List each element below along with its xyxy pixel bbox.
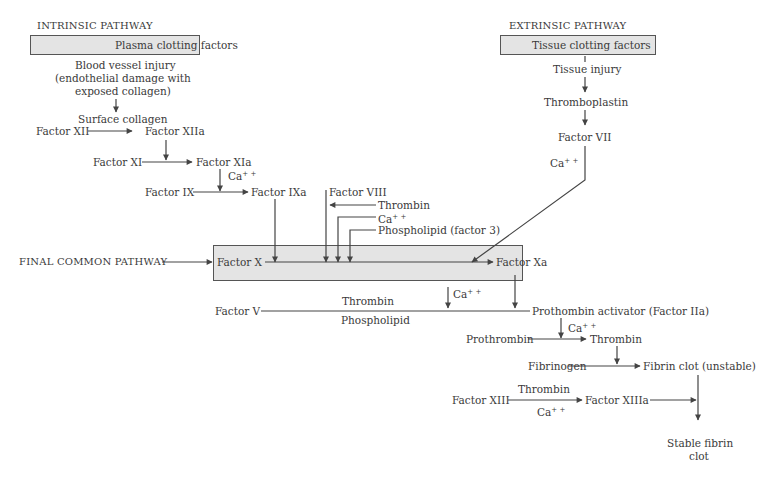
factor-xiia-label: Factor XIIa <box>145 125 205 137</box>
clot-label: clot <box>689 450 709 462</box>
factor-v-label: Factor V <box>215 305 260 317</box>
thrombin-label: Thrombin <box>518 383 570 395</box>
prothrombin-activator-label: Prothombin activator (Factor IIa) <box>532 305 709 317</box>
intrinsic-pathway-title: INTRINSIC PATHWAY <box>37 20 153 32</box>
calcium-label: Ca+ + <box>537 404 565 418</box>
exposed-collagen-label: exposed collagen) <box>75 85 171 97</box>
factor-x-label: Factor X <box>217 256 262 268</box>
factor-viii-label: Factor VIII <box>329 186 387 198</box>
tissue-injury-label: Tissue injury <box>553 63 622 75</box>
phospholipid-factor3-label: Phospholipid (factor 3) <box>378 224 500 236</box>
thrombin-label: Thrombin <box>342 295 394 307</box>
factor-ixa-label: Factor IXa <box>251 186 307 198</box>
endothelial-damage-label: (endothelial damage with <box>55 72 191 84</box>
calcium-label: Ca+ + <box>378 211 406 225</box>
phospholipid-label: Phospholipid <box>341 314 410 326</box>
thromboplastin-label: Thromboplastin <box>544 96 628 108</box>
factor-xia-label: Factor XIa <box>196 156 252 168</box>
calcium-label: Ca+ + <box>568 320 596 334</box>
plasma-clotting-factors-label: Plasma clotting factors <box>115 39 238 51</box>
calcium-label: Ca+ + <box>228 168 256 182</box>
final-common-pathway-title: FINAL COMMON PATHWAY <box>19 256 167 268</box>
factor-xiii-label: Factor XIII <box>452 394 510 406</box>
calcium-label: Ca+ + <box>453 286 481 300</box>
stable-fibrin-label: Stable fibrin <box>667 437 733 449</box>
factor-ix-label: Factor IX <box>145 186 194 198</box>
factor-xiiia-label: Factor XIIIa <box>585 394 649 406</box>
blood-vessel-injury-label: Blood vessel injury <box>75 59 176 71</box>
tissue-clotting-factors-label: Tissue clotting factors <box>532 39 651 51</box>
extrinsic-pathway-title: EXTRINSIC PATHWAY <box>509 20 626 32</box>
factor-xa-label: Factor Xa <box>496 256 547 268</box>
thrombin-label: Thrombin <box>378 199 430 211</box>
fibrinogen-label: Fibrinogen <box>528 360 587 372</box>
fibrin-clot-unstable-label: Fibrin clot (unstable) <box>643 360 756 372</box>
calcium-label: Ca+ + <box>550 155 578 169</box>
factor-vii-label: Factor VII <box>558 131 612 143</box>
factor-xi-label: Factor XI <box>93 156 142 168</box>
factor-xii-label: Factor XII <box>36 125 89 137</box>
surface-collagen-label: Surface collagen <box>78 113 167 125</box>
thrombin-product-label: Thrombin <box>590 333 642 345</box>
coagulation-cascade-diagram: INTRINSIC PATHWAY Plasma clotting factor… <box>0 0 763 479</box>
prothrombin-label: Prothrombin <box>466 333 534 345</box>
